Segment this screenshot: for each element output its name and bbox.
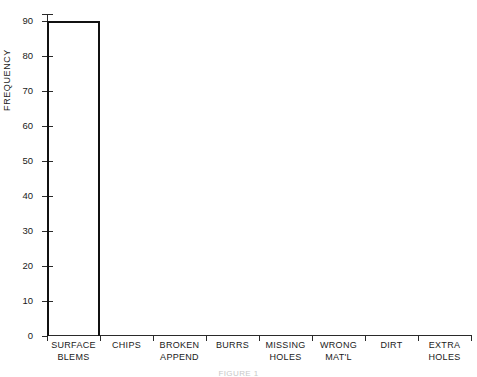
y-tick-label: 20 xyxy=(22,260,33,271)
y-tick-label: 90 xyxy=(22,15,33,26)
x-category-label: CHIPS xyxy=(100,340,153,352)
figure-caption: FIGURE 1 xyxy=(0,369,477,377)
y-tick-label: 10 xyxy=(22,295,33,306)
x-axis-category-labels: SURFACE BLEMSCHIPSBROKEN APPENDBURRSMISS… xyxy=(47,340,471,366)
bar xyxy=(47,21,100,336)
y-axis-top-tick xyxy=(42,14,53,15)
y-tick-label: 40 xyxy=(22,190,33,201)
y-tick-label: 50 xyxy=(22,155,33,166)
y-tick-label: 30 xyxy=(22,225,33,236)
y-axis-title: FREQUENCY xyxy=(2,20,12,140)
x-category-label: DIRT xyxy=(365,340,418,352)
x-category-label: EXTRA HOLES xyxy=(418,340,471,363)
y-tick-label: 80 xyxy=(22,50,33,61)
x-category-label: MISSING HOLES xyxy=(259,340,312,363)
y-tick-label: 0 xyxy=(28,330,33,341)
x-category-label: WRONG MAT'L xyxy=(312,340,365,363)
y-tick-label: 70 xyxy=(22,85,33,96)
x-tick xyxy=(471,335,472,341)
x-category-label: SURFACE BLEMS xyxy=(47,340,100,363)
plot-area: 0102030405060708090 xyxy=(47,14,471,336)
y-tick-label: 60 xyxy=(22,120,33,131)
x-category-label: BROKEN APPEND xyxy=(153,340,206,363)
figure-container: FREQUENCY 0102030405060708090 SURFACE BL… xyxy=(0,0,477,377)
x-category-label: BURRS xyxy=(206,340,259,352)
